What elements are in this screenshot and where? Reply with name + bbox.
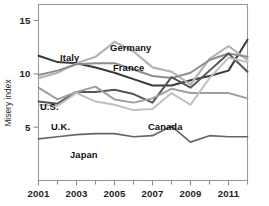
y-tick-label: 5 [25,122,31,133]
series-label-japan: Japan [70,149,98,160]
y-tick-label: 10 [19,68,30,79]
x-tick-label: 2005 [103,188,126,199]
y-axis-title: Misery index [4,79,13,126]
x-tick-label: 2011 [218,188,240,199]
misery-index-line-chart: Misery index 51015 200120032005200720092… [0,0,269,206]
x-tick-label: 2007 [141,188,163,199]
series-label-italy: Italy [60,52,80,63]
y-tick-label: 15 [19,15,31,26]
series-label-germany: Germany [110,42,152,53]
series-label-france: France [113,62,144,73]
series-label-uk: U.K. [51,121,70,132]
x-tick-label: 2001 [27,188,50,199]
chart-figure: Misery index 51015 200120032005200720092… [0,0,269,206]
series-label-canada: Canada [148,121,183,132]
x-tick-label: 2003 [65,188,87,199]
x-tick-label: 2009 [179,188,201,199]
series-label-us: U.S. [40,101,59,112]
